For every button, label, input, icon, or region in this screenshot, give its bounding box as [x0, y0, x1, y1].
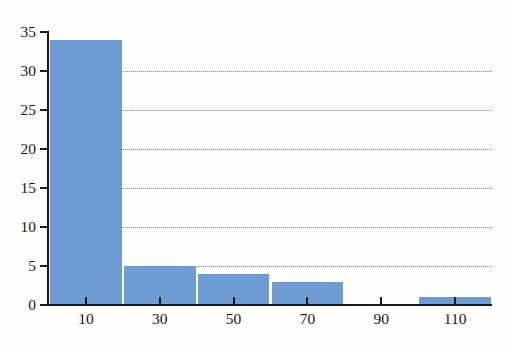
y-axis-tick	[40, 31, 49, 33]
x-axis-tick	[85, 297, 87, 306]
x-axis-tick-label: 10	[66, 311, 106, 327]
x-axis-tick-label: 90	[361, 311, 401, 327]
x-axis-tick	[380, 297, 382, 306]
x-axis-tick-label: 30	[140, 311, 180, 327]
y-axis-tick-label: 5	[0, 258, 36, 274]
y-axis-tick-label: 20	[0, 141, 36, 157]
histogram-chart: 05101520253035 1030507090110	[0, 0, 513, 350]
y-axis-tick	[40, 187, 49, 189]
plot-area	[49, 32, 492, 305]
y-axis-tick-label: 15	[0, 180, 36, 196]
histogram-bar	[49, 40, 123, 305]
x-axis-tick-label: 70	[287, 311, 327, 327]
y-axis-tick	[40, 226, 49, 228]
x-axis-tick	[454, 297, 456, 306]
y-axis-tick	[40, 70, 49, 72]
y-axis-tick-label: 25	[0, 102, 36, 118]
y-axis-tick-label: 35	[0, 24, 36, 40]
x-axis-line	[47, 304, 492, 306]
y-axis-tick	[40, 148, 49, 150]
y-axis-tick	[40, 304, 49, 306]
y-axis-tick-label: 10	[0, 219, 36, 235]
x-axis-tick	[159, 297, 161, 306]
x-axis-tick	[233, 297, 235, 306]
y-axis-tick-label: 0	[0, 297, 36, 313]
x-axis-tick-label: 110	[435, 311, 475, 327]
x-axis-tick-label: 50	[214, 311, 254, 327]
y-axis-tick	[40, 265, 49, 267]
y-axis-tick-label: 30	[0, 63, 36, 79]
x-axis-tick	[306, 297, 308, 306]
y-axis-tick	[40, 109, 49, 111]
